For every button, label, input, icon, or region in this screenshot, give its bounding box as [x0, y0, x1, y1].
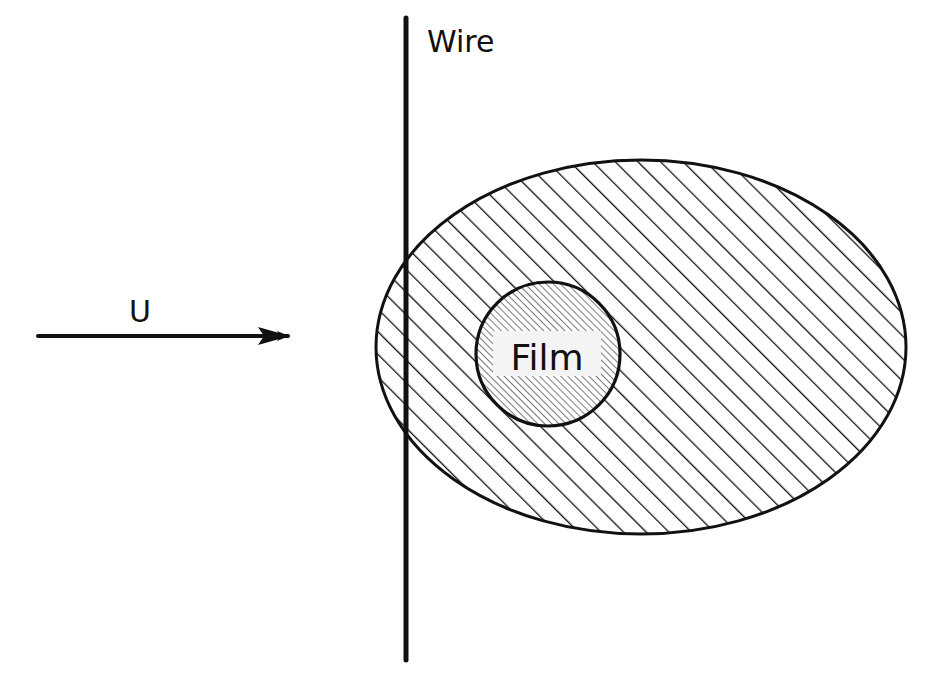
film-label: Film	[510, 337, 583, 378]
wire-label: Wire	[427, 24, 494, 59]
flow-velocity-label: U	[129, 294, 151, 329]
film-region: Film	[476, 282, 620, 426]
diagram-canvas: Film Wire U	[0, 0, 939, 697]
wake-region	[376, 160, 906, 534]
flow-arrow	[38, 327, 290, 345]
